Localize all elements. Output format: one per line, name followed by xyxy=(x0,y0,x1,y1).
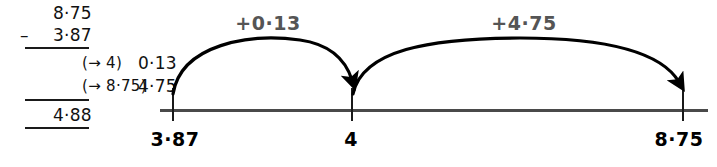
jump-arcs xyxy=(0,0,717,167)
jump-arc-second xyxy=(353,38,679,94)
number-line-subtraction-diagram: 8·75 – 3·87 0·13 (→ 4) 4·75 (→ 8·75) 4·8… xyxy=(0,0,717,167)
jump-arc-first xyxy=(173,38,352,94)
number-line: 3·87 4 8·75 +0·13 +4·75 xyxy=(0,0,717,167)
